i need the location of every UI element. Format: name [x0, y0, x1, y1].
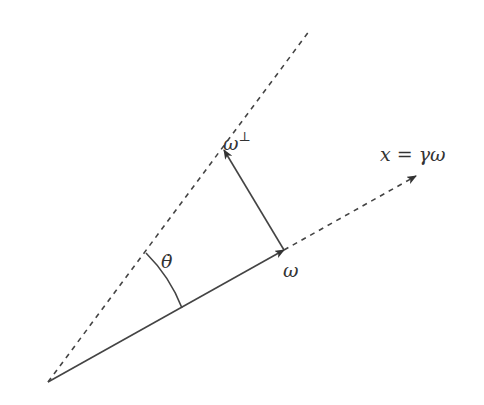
omega-perp-base: ω — [223, 132, 239, 154]
omega-perp-label: ω⊥ — [223, 131, 251, 154]
perp-superscript: ⊥ — [239, 129, 251, 144]
omega-label: ω — [283, 259, 299, 281]
diagram-canvas — [0, 0, 484, 405]
theta-dot-label: θ̇ — [161, 250, 172, 272]
x-equals-gamma-omega-label: x = γω — [380, 143, 446, 165]
omega-perp-vector — [224, 150, 284, 250]
x-gamma-omega-dashed-vector — [284, 176, 416, 250]
dashed-upper-line — [48, 30, 310, 382]
